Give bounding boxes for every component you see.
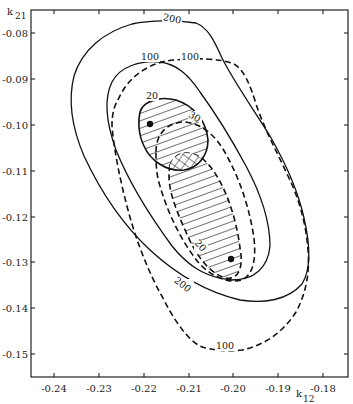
svg-text:-0.22: -0.22 — [131, 383, 157, 394]
x-tick-labels: -0.24 -0.23 -0.22 -0.21 -0.20 -0.19 -0.1… — [41, 383, 336, 394]
svg-text:-0.12: -0.12 — [2, 212, 28, 223]
svg-text:-0.11: -0.11 — [2, 166, 28, 177]
svg-text:12: 12 — [303, 394, 314, 404]
svg-text:-0.21: -0.21 — [176, 383, 202, 394]
svg-text:20: 20 — [146, 90, 158, 101]
svg-text:-0.18: -0.18 — [310, 383, 336, 394]
solid-minimum-point — [147, 121, 153, 127]
y-axis-label: k 21 — [7, 6, 26, 21]
svg-text:100: 100 — [216, 340, 234, 351]
svg-text:-0.15: -0.15 — [2, 349, 28, 360]
svg-text:-0.23: -0.23 — [86, 383, 112, 394]
svg-text:-0.10: -0.10 — [2, 120, 28, 131]
svg-text:k: k — [296, 388, 303, 399]
svg-text:200: 200 — [172, 275, 193, 295]
svg-text:-0.13: -0.13 — [2, 257, 28, 268]
svg-text:-0.19: -0.19 — [265, 383, 291, 394]
svg-text:-0.09: -0.09 — [2, 74, 28, 85]
svg-text:100: 100 — [141, 51, 159, 62]
svg-text:21: 21 — [15, 11, 26, 21]
svg-text:100: 100 — [181, 51, 199, 62]
svg-text:-0.20: -0.20 — [220, 383, 246, 394]
svg-text:k: k — [7, 6, 14, 17]
svg-text:-0.14: -0.14 — [2, 303, 28, 314]
y-tick-labels: -0.08 -0.09 -0.10 -0.11 -0.12 -0.13 -0.1… — [2, 28, 28, 360]
svg-text:-0.08: -0.08 — [2, 28, 28, 39]
dashed-minimum-point — [228, 256, 234, 262]
contour-figure: -0.24 -0.23 -0.22 -0.21 -0.20 -0.19 -0.1… — [0, 0, 353, 404]
contour-plot: -0.24 -0.23 -0.22 -0.21 -0.20 -0.19 -0.1… — [0, 0, 353, 404]
svg-text:-0.24: -0.24 — [41, 383, 67, 394]
